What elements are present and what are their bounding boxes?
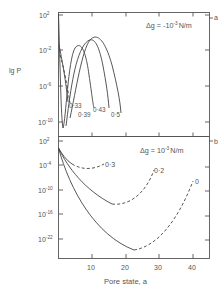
panel-b-frame (59, 137, 210, 259)
x-axis-label: Pore state, a (104, 277, 148, 286)
svg-text:0·43: 0·43 (93, 106, 106, 113)
y-axis-label: lg P (9, 67, 21, 75)
svg-text:0·3: 0·3 (105, 161, 115, 168)
svg-text:0: 0 (195, 178, 199, 185)
panel-b-annotation: Δg = 10-3N/m (140, 146, 183, 155)
panel-a-annotation: Δg = -10-3N/m (146, 21, 192, 30)
panel-a-curve-labels: 0·33 0·39 0·43 0·5 (69, 102, 121, 118)
panel-b-ytick-label: 10-16 (38, 210, 53, 218)
panel-b-curves (59, 148, 194, 250)
panel-b: 102 10-4 10-10 10-16 10-22 10 20 30 40 P… (38, 137, 218, 287)
svg-text:0·2: 0·2 (154, 167, 164, 174)
panel-b-yticks (59, 141, 214, 240)
panel-b-curve-labels: 0·3 0·2 0 (105, 161, 199, 185)
curve-0-2-dashed (112, 170, 154, 204)
curve-0-dashed (134, 181, 193, 250)
panel-b-ytick-label: 102 (39, 137, 50, 145)
panel-a-ytick-label: 10-2 (39, 46, 51, 54)
curve-0-3-dashed (72, 164, 104, 169)
svg-text:0·39: 0·39 (78, 111, 91, 118)
panel-b-xticks (92, 254, 193, 259)
curve-0-solid (59, 148, 135, 250)
x-tick-label: 30 (154, 264, 162, 271)
x-tick-label: 20 (121, 264, 129, 271)
panel-a-ytick-label: 10-6 (39, 82, 51, 90)
panel-a-ytick-label: 102 (39, 11, 50, 19)
x-tick-label: 40 (188, 264, 196, 271)
panel-b-ytick-label: 10-4 (39, 161, 51, 169)
panel-a-yticks (59, 15, 214, 122)
x-tick-label: 10 (87, 264, 95, 271)
panel-a-xticks (92, 13, 193, 137)
panel-b-ytick-label: 10-10 (38, 186, 53, 194)
panel-a-ytick-label: 10-10 (38, 118, 53, 126)
curve-0-2-solid (59, 148, 113, 204)
panel-b-letter: b (214, 138, 218, 145)
svg-text:0·33: 0·33 (69, 102, 82, 109)
panel-a: 102 10-2 10-6 10-10 lg P Δg = -10-3N/m a… (9, 11, 218, 137)
svg-text:0·5: 0·5 (111, 111, 121, 118)
figure: 102 10-2 10-6 10-10 lg P Δg = -10-3N/m a… (0, 0, 220, 290)
panel-a-letter: a (214, 14, 218, 21)
panel-b-ytick-label: 10-22 (38, 235, 53, 243)
